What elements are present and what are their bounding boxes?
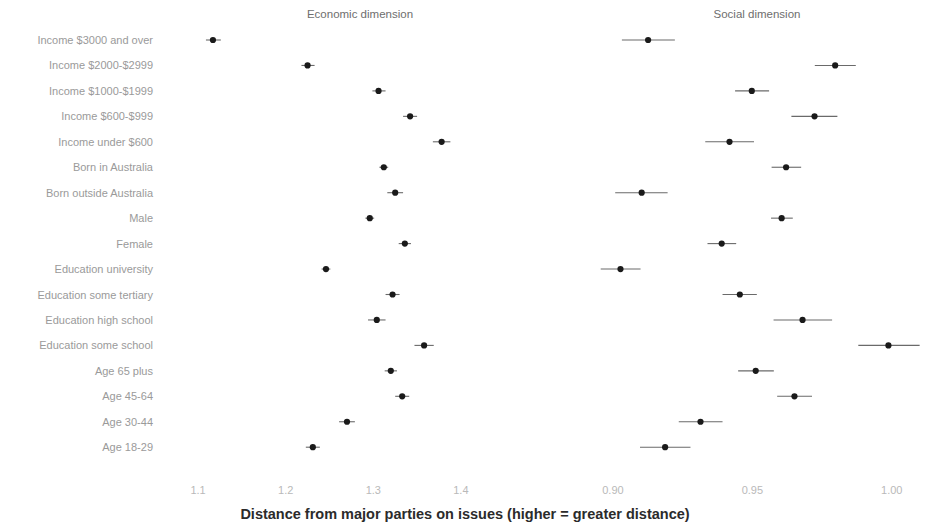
x-tick-label: 1.2 — [278, 484, 293, 496]
category-label: Age 65 plus — [95, 365, 154, 377]
category-label: Age 30-44 — [102, 416, 153, 428]
category-label: Education some school — [39, 339, 153, 351]
estimate-point — [617, 266, 623, 272]
estimate-point — [421, 342, 427, 348]
panel-title-economic: Economic dimension — [307, 8, 413, 20]
category-label: Income $600-$999 — [61, 110, 153, 122]
estimate-point — [381, 164, 387, 170]
category-label: Born in Australia — [73, 161, 154, 173]
estimate-point — [726, 139, 732, 145]
estimate-point — [885, 342, 891, 348]
category-label: Age 45-64 — [102, 390, 153, 402]
estimate-point — [749, 88, 755, 94]
estimate-point — [367, 215, 373, 221]
estimate-point — [392, 190, 398, 196]
category-label: Born outside Australia — [46, 187, 154, 199]
x-tick-label: 0.95 — [742, 484, 763, 496]
category-label: Education university — [55, 263, 154, 275]
estimate-point — [639, 190, 645, 196]
estimate-point — [719, 241, 725, 247]
category-label: Female — [116, 238, 153, 250]
estimate-point — [439, 139, 445, 145]
estimate-point — [811, 113, 817, 119]
estimate-point — [737, 291, 743, 297]
estimate-point — [645, 37, 651, 43]
category-label: Income $2000-$2999 — [49, 59, 153, 71]
x-tick-label: 0.90 — [602, 484, 623, 496]
estimate-point — [310, 444, 316, 450]
estimate-point — [407, 113, 413, 119]
category-label: Education some tertiary — [37, 289, 153, 301]
estimate-point — [753, 368, 759, 374]
panel-title-social: Social dimension — [714, 8, 801, 20]
x-tick-label: 1.3 — [366, 484, 381, 496]
estimate-point — [210, 37, 216, 43]
category-label: Income $3000 and over — [37, 34, 153, 46]
estimate-point — [832, 62, 838, 68]
category-label: Education high school — [45, 314, 153, 326]
category-label: Income $1000-$1999 — [49, 85, 153, 97]
x-tick-label: 1.00 — [881, 484, 902, 496]
estimate-point — [783, 164, 789, 170]
estimate-point — [779, 215, 785, 221]
category-label: Age 18-29 — [102, 441, 153, 453]
x-axis-title: Distance from major parties on issues (h… — [240, 506, 689, 522]
estimate-point — [388, 368, 394, 374]
estimate-point — [399, 393, 405, 399]
category-label: Income under $600 — [58, 136, 153, 148]
estimate-point — [791, 393, 797, 399]
category-label: Male — [129, 212, 153, 224]
x-tick-label: 1.1 — [190, 484, 205, 496]
x-tick-label: 1.4 — [453, 484, 468, 496]
estimate-point — [323, 266, 329, 272]
estimate-point — [662, 444, 668, 450]
estimate-point — [304, 62, 310, 68]
estimate-point — [374, 317, 380, 323]
estimate-point — [799, 317, 805, 323]
estimate-point — [697, 419, 703, 425]
estimate-point — [402, 241, 408, 247]
dot-plot-figure: Economic dimensionSocial dimension Incom… — [0, 0, 931, 528]
estimate-point — [389, 291, 395, 297]
estimate-point — [375, 88, 381, 94]
estimate-point — [344, 419, 350, 425]
